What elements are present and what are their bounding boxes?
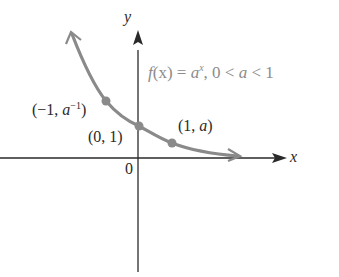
pt2-open: (1, bbox=[178, 117, 199, 134]
pt0-sup: −1 bbox=[70, 100, 81, 111]
point-0 bbox=[135, 122, 144, 131]
fn-cond: , 0 < bbox=[204, 63, 239, 82]
graph-canvas bbox=[0, 0, 339, 277]
function-label: f(x) = ax, 0 < a < 1 bbox=[148, 62, 274, 83]
fn-base: a bbox=[191, 63, 200, 82]
fn-eq: = bbox=[173, 63, 191, 82]
x-axis-label: x bbox=[290, 148, 297, 166]
fn-cond2: < 1 bbox=[247, 63, 274, 82]
y-axis-arrow-icon bbox=[133, 30, 143, 45]
point-neg1 bbox=[102, 97, 111, 106]
point-label-0: (0, 1) bbox=[88, 128, 123, 146]
y-axis-label: y bbox=[124, 8, 131, 26]
pt2-close: ) bbox=[207, 117, 212, 134]
point-label-1: (1, a) bbox=[178, 117, 213, 135]
fn-arg: (x) bbox=[153, 63, 173, 82]
fn-var: a bbox=[239, 63, 248, 82]
point-1 bbox=[168, 139, 177, 148]
exponential-decay-diagram: y x 0 f(x) = ax, 0 < a < 1 (−1, a−1) (0,… bbox=[0, 0, 339, 277]
pt0-close: ) bbox=[81, 101, 86, 118]
point-label-neg1: (−1, a−1) bbox=[32, 100, 86, 119]
origin-label: 0 bbox=[125, 160, 133, 178]
pt0-open: (−1, bbox=[32, 101, 62, 118]
